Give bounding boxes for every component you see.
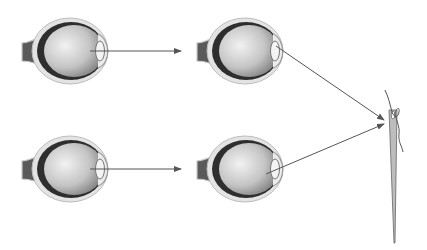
needle-icon bbox=[385, 90, 403, 243]
eye-top-right bbox=[197, 18, 283, 84]
arrow-bottom-right bbox=[266, 124, 384, 174]
eye-bottom-right bbox=[197, 136, 283, 202]
eye-focus-diagram bbox=[0, 0, 427, 250]
arrow-top-right bbox=[276, 46, 384, 120]
